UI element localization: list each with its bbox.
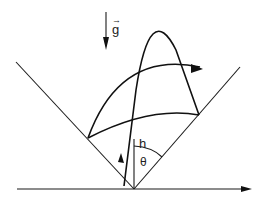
trajectory-tall-parabola [124,31,199,186]
gravity-arrow-head [103,37,109,50]
trajectory-lower-arc [88,113,199,138]
horizontal-axis-arrowhead [241,186,252,192]
trajectory-upper-arc [88,64,200,138]
angle-label: θ [140,155,147,169]
trajectory-arrowhead-up [118,153,124,163]
trajectory-arrowhead-right [191,64,203,73]
right-wedge-wall [134,67,240,189]
wedge-diagram: → g h θ [0,0,259,200]
height-label: h [139,136,146,151]
gravity-label: g [112,22,119,37]
